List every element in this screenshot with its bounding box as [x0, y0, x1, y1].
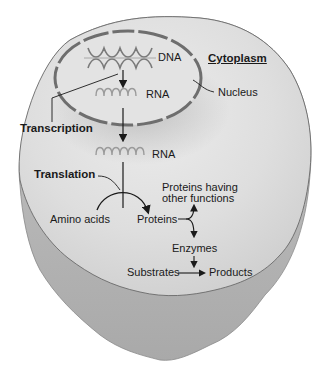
rna-cytoplasmic-label: RNA	[152, 149, 175, 160]
substrates-label: Substrates	[127, 267, 180, 278]
amino-acids-label: Amino acids	[50, 214, 110, 225]
enzymes-label: Enzymes	[172, 243, 217, 254]
translation-label: Translation	[34, 169, 95, 181]
nucleus-label: Nucleus	[218, 87, 258, 98]
products-label: Products	[209, 267, 252, 278]
proteins-label: Proteins	[137, 214, 177, 225]
dna-label: DNA	[158, 52, 181, 63]
nuclear-envelope	[55, 31, 201, 125]
rna-nuclear-label: RNA	[146, 89, 169, 100]
proteins-other-label-line2: other functions	[162, 193, 234, 204]
transcription-label: Transcription	[20, 123, 93, 135]
cytoplasm-label: Cytoplasm	[208, 53, 267, 65]
